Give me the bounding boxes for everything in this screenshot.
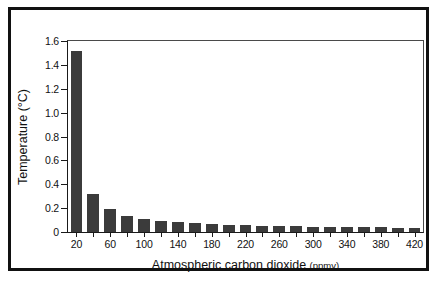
y-axis-tick-label: 0.2 bbox=[45, 202, 59, 214]
bar bbox=[138, 219, 150, 232]
y-axis-tick-label: 0.8 bbox=[45, 131, 59, 143]
y-axis-tick bbox=[61, 41, 68, 42]
y-axis-tick-label: 1.2 bbox=[45, 83, 59, 95]
bar bbox=[206, 224, 218, 232]
bar bbox=[172, 222, 184, 232]
x-axis-tick bbox=[76, 232, 77, 237]
bar-series bbox=[68, 41, 423, 232]
y-axis-tick bbox=[61, 65, 68, 66]
x-axis-tick-label: 100 bbox=[136, 238, 153, 250]
x-axis-tick bbox=[161, 232, 162, 237]
x-axis-tick-label: 180 bbox=[203, 238, 220, 250]
x-axis-tick bbox=[296, 232, 297, 237]
x-axis-tick bbox=[347, 232, 348, 237]
x-axis-tick bbox=[93, 232, 94, 237]
x-axis-tick bbox=[229, 232, 230, 237]
x-axis-tick bbox=[262, 232, 263, 237]
plot-area: 00.20.40.60.81.01.21.41.6206010014018022… bbox=[67, 40, 424, 233]
y-axis-tick bbox=[61, 208, 68, 209]
x-axis-tick bbox=[110, 232, 111, 237]
y-axis-tick bbox=[61, 184, 68, 185]
x-axis-units-text: (ppmv) bbox=[310, 260, 340, 271]
x-axis-tick bbox=[279, 232, 280, 237]
x-axis-tick bbox=[246, 232, 247, 237]
x-axis-tick-label: 20 bbox=[71, 238, 82, 250]
figure: Temperature (°C) 00.20.40.60.81.01.21.41… bbox=[0, 0, 441, 286]
x-axis-tick bbox=[381, 232, 382, 237]
bar bbox=[189, 223, 201, 232]
x-axis-tick bbox=[364, 232, 365, 237]
y-axis-tick bbox=[61, 232, 68, 233]
x-axis-tick bbox=[415, 232, 416, 237]
x-axis-tick bbox=[398, 232, 399, 237]
x-axis-title-text: Atmospheric carbon dioxide bbox=[152, 258, 306, 272]
x-axis-tick bbox=[212, 232, 213, 237]
y-axis-title-text: Temperature (°C) bbox=[16, 89, 30, 185]
x-axis-tick bbox=[330, 232, 331, 237]
y-axis-title: Temperature (°C) bbox=[15, 40, 31, 233]
y-axis-tick-label: 0.4 bbox=[45, 178, 59, 190]
y-axis-tick bbox=[61, 160, 68, 161]
x-axis-tick-label: 140 bbox=[169, 238, 186, 250]
x-axis-tick-label: 420 bbox=[406, 238, 423, 250]
bar bbox=[104, 209, 116, 232]
bar bbox=[155, 221, 167, 232]
y-axis-tick-label: 1.6 bbox=[45, 35, 59, 47]
x-axis-tick bbox=[313, 232, 314, 237]
y-axis-tick bbox=[61, 137, 68, 138]
y-axis-tick-label: 1.0 bbox=[45, 107, 59, 119]
y-axis-tick-label: 0 bbox=[53, 226, 59, 238]
x-axis-tick-label: 340 bbox=[338, 238, 355, 250]
x-axis-tick-label: 300 bbox=[305, 238, 322, 250]
x-axis-tick-label: 220 bbox=[237, 238, 254, 250]
bar bbox=[121, 216, 133, 232]
bar bbox=[87, 194, 99, 232]
x-axis-tick bbox=[178, 232, 179, 237]
x-axis-tick bbox=[195, 232, 196, 237]
bar bbox=[71, 51, 83, 232]
x-axis-tick-label: 380 bbox=[372, 238, 389, 250]
y-axis-tick bbox=[61, 89, 68, 90]
bar bbox=[223, 225, 235, 232]
x-axis-tick-label: 260 bbox=[271, 238, 288, 250]
y-axis-tick-label: 0.6 bbox=[45, 154, 59, 166]
x-axis-tick-label: 60 bbox=[105, 238, 116, 250]
figure-border: Temperature (°C) 00.20.40.60.81.01.21.41… bbox=[8, 7, 429, 271]
y-axis-tick bbox=[61, 113, 68, 114]
x-axis-tick bbox=[144, 232, 145, 237]
y-axis-tick-label: 1.4 bbox=[45, 59, 59, 71]
x-axis-title: Atmospheric carbon dioxide (ppmv) bbox=[67, 258, 424, 272]
x-axis-tick bbox=[127, 232, 128, 237]
